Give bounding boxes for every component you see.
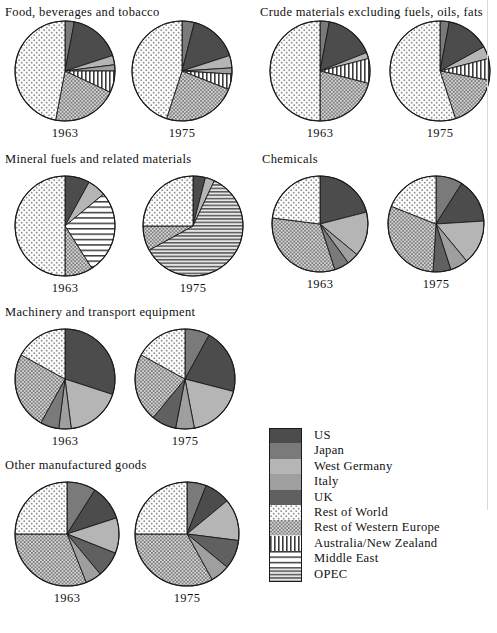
panel-title: Food, beverages and tobacco <box>5 5 160 20</box>
pie-panel: Crude materials excluding fuels, oils, f… <box>260 5 483 143</box>
pie-slice <box>135 482 187 534</box>
legend-swatch <box>269 520 302 535</box>
pie-chart <box>13 327 117 431</box>
pie-year-label: 1963 <box>13 126 117 141</box>
panel-pies: 1963 1975 <box>5 327 195 451</box>
pie-chart-holder: 1963 <box>13 174 117 296</box>
pie-chart-holder: 1963 <box>270 174 370 292</box>
legend-item: OPEC <box>269 567 440 582</box>
legend-swatch-texture <box>270 551 301 566</box>
pie-chart <box>13 174 117 278</box>
pie-chart <box>270 174 370 274</box>
panel-pies: 1963 1975 <box>5 19 160 143</box>
legend-item: Japan <box>269 443 440 458</box>
pie-slice <box>15 482 67 534</box>
legend-label: Australia/New Zealand <box>314 536 437 551</box>
pie-chart <box>141 174 245 278</box>
pie-slice <box>270 21 320 121</box>
pie-chart <box>133 327 237 431</box>
pie-panel: Other manufactured goods 1963 <box>5 458 147 608</box>
pie-chart-holder: 1963 <box>13 327 117 449</box>
pie-year-label: 1975 <box>130 126 234 141</box>
legend-item: West Germany <box>269 459 440 474</box>
legend-swatch <box>269 536 302 551</box>
pie-slice <box>15 21 65 120</box>
panel-title: Crude materials excluding fuels, oils, f… <box>260 5 483 20</box>
panel-pies: 1963 1975 <box>262 174 318 294</box>
legend-label: Middle East <box>314 551 379 566</box>
legend-label: Japan <box>314 443 344 458</box>
legend-label: West Germany <box>314 459 392 474</box>
legend-swatch-texture <box>270 505 301 520</box>
legend-item: Middle East <box>269 551 440 566</box>
legend: USJapanWest GermanyItalyUK Rest of World <box>269 428 440 582</box>
pie-chart-holder: 1963 <box>13 480 121 606</box>
legend-swatch <box>269 505 302 520</box>
pie-year-label: 1963 <box>13 591 121 606</box>
pie-chart-holder: 1975 <box>133 480 241 606</box>
legend-swatch <box>269 474 302 489</box>
legend-swatch-texture <box>270 520 301 535</box>
legend-label: Italy <box>314 474 339 489</box>
legend-swatch <box>269 567 302 582</box>
pie-panel: Machinery and transport equipment 1963 <box>5 305 195 451</box>
pie-chart <box>268 19 372 123</box>
pie-year-label: 1975 <box>386 277 486 292</box>
pie-year-label: 1975 <box>133 434 237 449</box>
page-edge-rule <box>487 0 488 510</box>
pie-year-label: 1975 <box>133 591 241 606</box>
panel-title: Other manufactured goods <box>5 458 147 473</box>
pie-chart-holder: 1975 <box>130 19 234 141</box>
legend-swatch <box>269 459 302 474</box>
legend-label: UK <box>314 490 333 505</box>
legend-item: US <box>269 428 440 443</box>
pie-chart <box>133 480 241 588</box>
panel-pies: 1963 1975 <box>5 480 147 608</box>
legend-swatch-texture <box>270 536 301 551</box>
pie-year-label: 1975 <box>388 126 492 141</box>
panel-pies: 1963 1975 <box>260 19 483 143</box>
pie-chart-holder: 1963 <box>268 19 372 141</box>
legend-label: Rest of Western Europe <box>314 520 440 535</box>
legend-label: US <box>314 428 331 443</box>
legend-item: Rest of World <box>269 505 440 520</box>
pie-year-label: 1975 <box>141 281 245 296</box>
pie-year-label: 1963 <box>268 126 372 141</box>
figure-page: Food, beverages and tobacco 1963 <box>0 0 497 633</box>
pie-chart <box>13 19 117 123</box>
legend-rows: USJapanWest GermanyItalyUK Rest of World <box>269 428 440 582</box>
pie-slice <box>272 176 320 224</box>
pie-chart-holder: 1963 <box>13 19 117 141</box>
pie-slice <box>15 176 65 276</box>
pie-year-label: 1963 <box>13 281 117 296</box>
legend-swatch <box>269 551 302 566</box>
legend-swatch <box>269 428 302 443</box>
pie-panel: Chemicals 1963 <box>262 152 318 294</box>
legend-label: Rest of World <box>314 505 388 520</box>
pie-year-label: 1963 <box>270 277 370 292</box>
pie-chart <box>130 19 234 123</box>
pie-chart-holder: 1975 <box>388 19 492 141</box>
pie-chart <box>388 19 492 123</box>
pie-year-label: 1963 <box>13 434 117 449</box>
legend-swatch <box>269 490 302 505</box>
panel-pies: 1963 1975 <box>5 174 191 298</box>
legend-label: OPEC <box>314 567 347 582</box>
legend-item: Rest of Western Europe <box>269 520 440 535</box>
legend-item: Italy <box>269 474 440 489</box>
legend-item: UK <box>269 490 440 505</box>
panel-title: Chemicals <box>262 152 318 167</box>
pie-chart-holder: 1975 <box>133 327 237 449</box>
pie-chart-holder: 1975 <box>141 174 245 296</box>
pie-panel: Mineral fuels and related materials 1963 <box>5 152 191 298</box>
pie-chart <box>13 480 121 588</box>
panel-title: Mineral fuels and related materials <box>5 152 191 167</box>
pie-chart-holder: 1975 <box>386 174 486 292</box>
pie-panel: Food, beverages and tobacco 1963 <box>5 5 160 143</box>
legend-swatch <box>269 443 302 458</box>
legend-item: Australia/New Zealand <box>269 536 440 551</box>
panel-title: Machinery and transport equipment <box>5 305 195 320</box>
legend-swatch-texture <box>270 567 301 582</box>
pie-slice <box>143 176 193 226</box>
pie-chart <box>386 174 486 274</box>
